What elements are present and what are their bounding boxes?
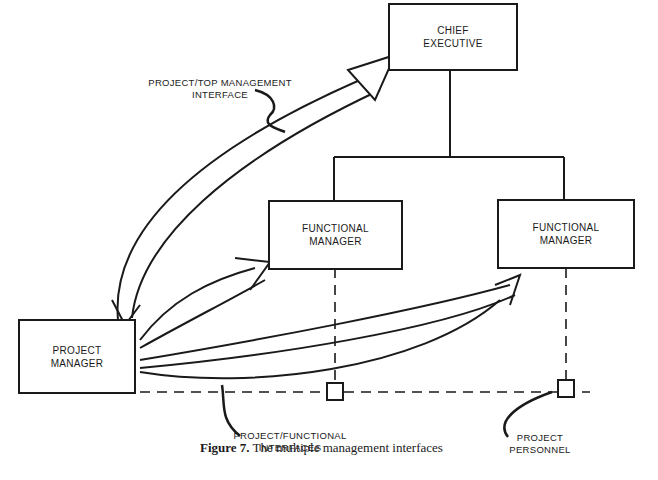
figure-caption: Figure 7. The multiple management interf…: [200, 440, 443, 456]
annotation-text: PROJECT/TOP MANAGEMENT: [145, 77, 295, 89]
chief-executive-box: CHIEFEXECUTIVE: [388, 3, 518, 71]
functional-manager-2-box: FUNCTIONALMANAGER: [497, 199, 635, 269]
annotation-text: PERSONNEL: [500, 444, 580, 456]
node-label: PROJECT: [51, 344, 104, 357]
caption-text: The multiple management interfaces: [250, 440, 443, 455]
node-label: FUNCTIONAL: [533, 221, 600, 234]
node-label: FUNCTIONAL: [302, 222, 369, 235]
node-label: MANAGER: [533, 234, 600, 247]
node-label: MANAGER: [51, 357, 104, 370]
node-label: EXECUTIVE: [423, 37, 482, 50]
annotation-text: INTERFACE: [145, 89, 295, 101]
figure-number: Figure 7.: [200, 440, 250, 455]
annotation-text: PROJECT: [500, 432, 580, 444]
node-label: CHIEF: [423, 24, 482, 37]
top-interface-label: PROJECT/TOP MANAGEMENT INTERFACE: [145, 77, 295, 101]
node-label: MANAGER: [302, 235, 369, 248]
project-personnel-label: PROJECT PERSONNEL: [500, 432, 580, 456]
project-manager-box: PROJECTMANAGER: [18, 319, 136, 394]
functional-manager-1-box: FUNCTIONALMANAGER: [268, 200, 403, 270]
